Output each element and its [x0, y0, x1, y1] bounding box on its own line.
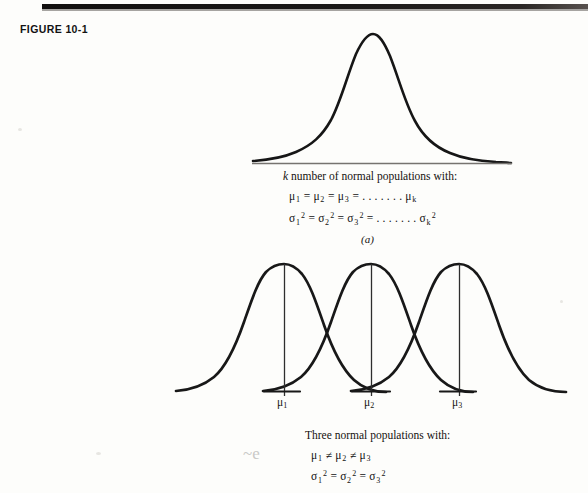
normal-curve-a [253, 34, 511, 163]
ellipsis-mu: . . . . . . . [362, 190, 402, 202]
scan-speck [560, 300, 563, 303]
mu-sub-k: k [412, 195, 417, 204]
mu-sub-2: 2 [320, 195, 325, 204]
noteq-2: ≠ [350, 449, 357, 461]
scan-speck [96, 452, 101, 455]
scan-smudge-artifact: ~e [243, 444, 279, 468]
equals-s3: = [367, 212, 374, 224]
panel-a-equation-sigma: σ12 = σ22 = σ32 = . . . . . . . σk2 [289, 211, 436, 227]
sigma-b-sup-1: 2 [323, 469, 328, 478]
mu-symbol-k: μ [405, 190, 411, 202]
sigma-symbol-2: σ [318, 212, 324, 224]
sigma-symbol-k: σ [420, 212, 426, 224]
figure-curves [0, 0, 588, 493]
sigma-b-sup-3: 2 [381, 469, 386, 478]
sigma-b-sub-1: 1 [317, 476, 322, 485]
equals-b2: = [360, 470, 367, 482]
normal-curve-b3 [351, 264, 566, 392]
mu-b-symbol-3: μ [360, 449, 366, 461]
equals-b1: = [330, 470, 337, 482]
sigma-sup-2: 2 [330, 211, 335, 220]
equals-1: = [304, 190, 311, 202]
mu-b-sub-2: 2 [342, 454, 347, 463]
tick-mu2-sub: 2 [370, 401, 374, 410]
sigma-sup-3: 2 [359, 211, 364, 220]
panel-a-label: (a) [361, 233, 374, 245]
mu-symbol-2: μ [313, 190, 319, 202]
equals-s2: = [338, 212, 345, 224]
sigma-b-symbol-3: σ [369, 470, 375, 482]
figure-page: FIGURE 10-1 k number of normal pop [0, 0, 588, 493]
panel-a-caption-text: number of normal populations with: [288, 170, 457, 182]
tick-mu1-sub: 1 [283, 401, 287, 410]
mu-b-sub-1: 1 [317, 454, 322, 463]
sigma-sub-2: 2 [325, 218, 330, 227]
sigma-b-sub-2: 2 [347, 476, 352, 485]
panel-a-caption: k number of normal populations with: [283, 170, 457, 182]
sigma-b-sup-2: 2 [352, 469, 357, 478]
panel-b-curve-group [176, 264, 566, 396]
normal-curve-b2 [263, 264, 473, 392]
tick-mu3-sub: 3 [458, 401, 462, 410]
panel-b-equation-mu: μ1 ≠ μ2 ≠ μ3 [311, 449, 371, 463]
mu-b-sub-3: 3 [366, 454, 371, 463]
sigma-symbol-3: σ [347, 212, 353, 224]
axis-tick-mu1: μ1 [277, 396, 287, 410]
normal-curve-b1 [176, 264, 386, 392]
mu-b-symbol-2: μ [335, 449, 341, 461]
sigma-sub-1: 1 [295, 218, 300, 227]
noteq-1: ≠ [326, 449, 333, 461]
equals-3: = [353, 190, 360, 202]
scan-speck [18, 128, 22, 131]
ellipsis-sigma: . . . . . . . [376, 212, 416, 224]
equals-s1: = [308, 212, 315, 224]
panel-b-caption: Three normal populations with: [305, 429, 450, 441]
mu-sub-3: 3 [344, 195, 349, 204]
panel-b-equation-sigma: σ12 = σ22 = σ32 [311, 469, 386, 485]
mu-sub-1: 1 [295, 195, 300, 204]
equals-2: = [328, 190, 335, 202]
axis-tick-mu2: μ2 [364, 396, 374, 410]
axis-tick-mu3: μ3 [452, 396, 462, 410]
sigma-b-symbol-2: σ [340, 470, 346, 482]
panel-a-equation-mu: μ1 = μ2 = μ3 = . . . . . . . μk [289, 190, 417, 204]
panel-a-curve-group [252, 34, 512, 164]
sigma-sup-k: 2 [431, 211, 436, 220]
sigma-sup-1: 2 [301, 211, 306, 220]
